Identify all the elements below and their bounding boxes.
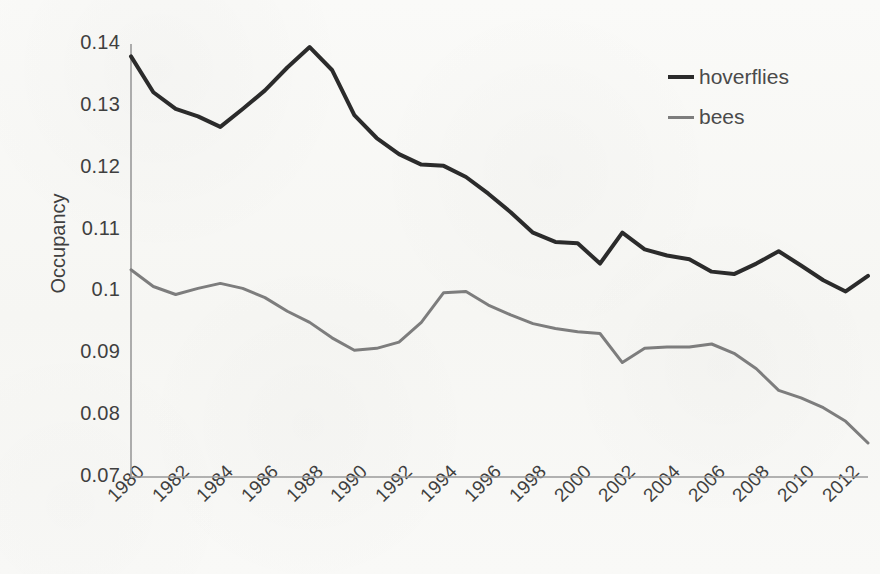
chart-figure: Occupancy 0.140.130.120.110.10.090.080.0…: [0, 0, 880, 574]
legend-label-hoverflies: hoverflies: [699, 65, 789, 89]
legend-item-hoverflies: hoverflies: [668, 57, 868, 97]
legend-line-icon-bees: [668, 116, 694, 119]
series-line-bees: [131, 270, 868, 443]
chart-legend: hoverflies bees: [668, 57, 868, 137]
legend-item-bees: bees: [668, 97, 868, 137]
legend-label-bees: bees: [699, 105, 745, 129]
legend-line-icon-hoverflies: [668, 75, 694, 79]
